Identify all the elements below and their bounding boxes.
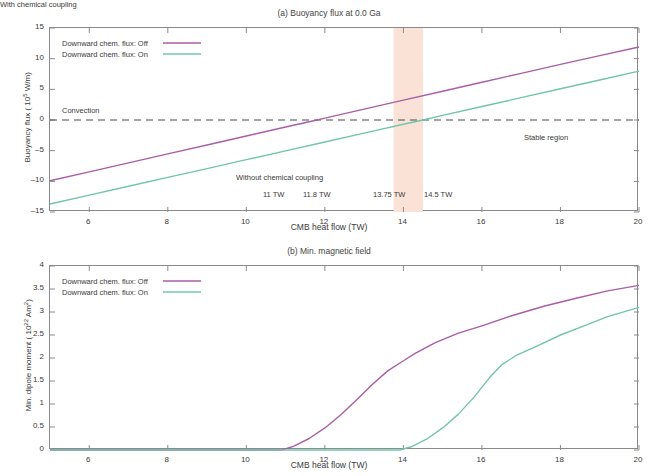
y-tick-label: 0.5 bbox=[18, 421, 44, 430]
panel-b-title: (b) Min. magnetic field bbox=[0, 246, 658, 256]
y-tick-label: 10 bbox=[18, 53, 44, 62]
series-line-off bbox=[50, 285, 639, 450]
y-tick-label: 15 bbox=[18, 22, 44, 31]
y-tick-label: 5 bbox=[18, 83, 44, 92]
annotation-without-chemical-coupling: Without chemical coupling bbox=[236, 173, 323, 182]
legend-a-label-on: Downward chem. flux: On bbox=[62, 50, 148, 59]
y-tick-label: 1.5 bbox=[18, 375, 44, 384]
y-b-exp2: 2 bbox=[23, 302, 29, 305]
y-tick-label: 1 bbox=[18, 398, 44, 407]
y-tick-label: –5 bbox=[18, 145, 44, 154]
y-tick-label: 0 bbox=[18, 114, 44, 123]
annotation-stable-region: Stable region bbox=[524, 133, 568, 142]
y-b-exp: 22 bbox=[23, 319, 29, 326]
legend-b-label-off: Downward chem. flux: Off bbox=[62, 277, 148, 286]
panel-b-x-axis-label: CMB heat flow (TW) bbox=[0, 460, 658, 470]
series-line-off bbox=[50, 47, 639, 181]
y-a-exp: 5 bbox=[22, 93, 28, 96]
panel-min-magnetic-field: (b) Min. magnetic field Downward chem. f… bbox=[0, 238, 658, 476]
annotation-tw-11: 11 TW bbox=[263, 190, 284, 199]
series-line-on bbox=[50, 307, 639, 450]
y-tick-label: 3.5 bbox=[18, 283, 44, 292]
annotation-tw-11-8: 11.8 TW bbox=[303, 190, 331, 199]
legend-a-swatches bbox=[163, 38, 203, 64]
y-tick-label: 4 bbox=[18, 260, 44, 269]
annotation-with-chemical-coupling: With chemical coupling bbox=[0, 0, 77, 9]
y-tick-label: –10 bbox=[18, 175, 44, 184]
y-tick-label: 2.5 bbox=[18, 329, 44, 338]
y-tick-label: 2 bbox=[18, 352, 44, 361]
y-b-tail2: ) bbox=[24, 299, 33, 302]
y-tick-label: 0 bbox=[18, 444, 44, 453]
legend-b-label-on: Downward chem. flux: On bbox=[62, 288, 148, 297]
legend-a-label-off: Downward chem. flux: Off bbox=[62, 39, 148, 48]
annotation-tw-14-5: 14.5 TW bbox=[424, 190, 452, 199]
annotation-convection: Convection bbox=[62, 106, 100, 115]
y-tick-label: 3 bbox=[18, 306, 44, 315]
annotation-tw-13-75: 13.75 TW bbox=[373, 190, 405, 199]
y-tick-label: –15 bbox=[18, 206, 44, 215]
legend-b-swatches bbox=[163, 276, 203, 302]
panel-buoyancy-flux: (a) Buoyancy flux at 0.0 Ga Downward che… bbox=[0, 0, 658, 238]
panel-a-x-axis-label: CMB heat flow (TW) bbox=[0, 222, 658, 232]
panel-a-title: (a) Buoyancy flux at 0.0 Ga bbox=[0, 8, 658, 18]
